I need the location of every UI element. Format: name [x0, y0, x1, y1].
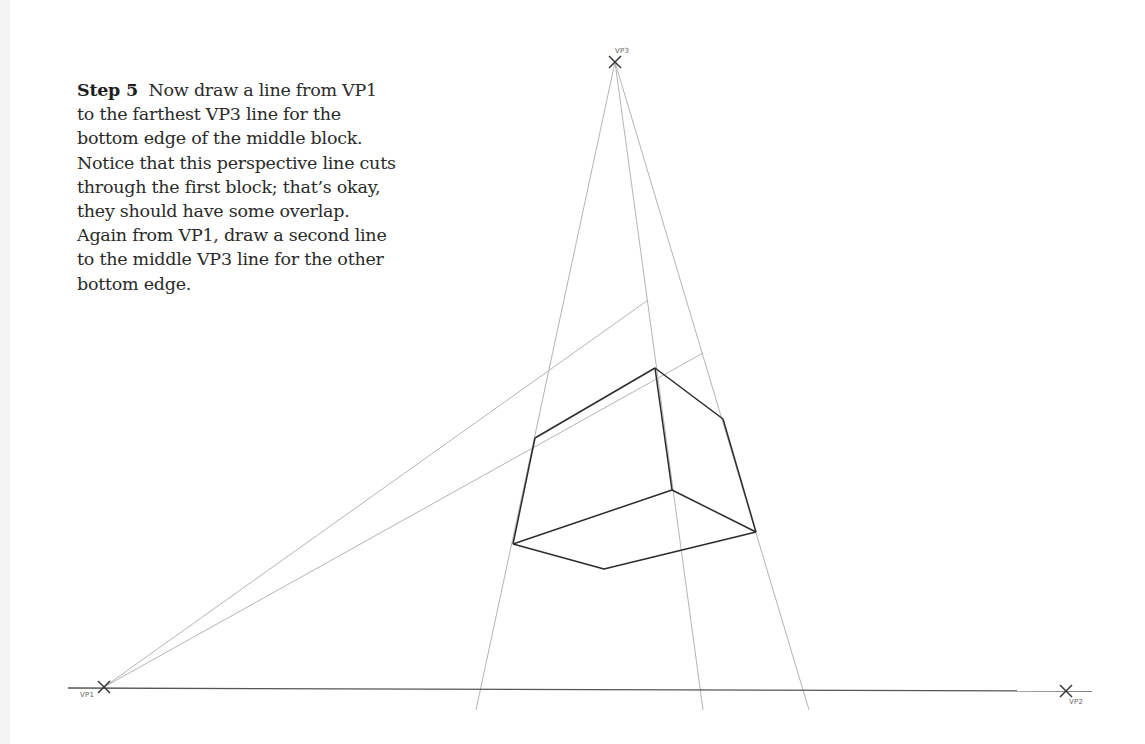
vp1-marker-icon	[98, 681, 110, 693]
vp3-guide-line-left	[476, 62, 615, 710]
vp3-guide-line-middle	[615, 62, 703, 710]
block-front-vertical-edge	[655, 368, 672, 490]
vp1-label: VP1	[80, 691, 94, 699]
block-inner-bottom-edges	[513, 490, 756, 544]
vp1-line-middle	[104, 353, 703, 687]
block-top-edges	[535, 368, 723, 438]
vp1-line-farthest	[104, 300, 648, 687]
vp1-guide-lines	[104, 300, 703, 687]
perspective-diagram	[0, 0, 1145, 744]
block-outer-bottom-edges	[513, 532, 756, 569]
vp2-label: VP2	[1069, 698, 1083, 706]
vp3-label: VP3	[615, 47, 629, 55]
horizon-line	[68, 688, 1092, 691]
block-left-vertical-edge	[513, 438, 535, 544]
vp3-guide-lines	[476, 62, 809, 710]
first-block	[513, 368, 756, 569]
vp3-marker-icon	[609, 56, 621, 68]
block-right-vertical-edge	[723, 419, 756, 532]
